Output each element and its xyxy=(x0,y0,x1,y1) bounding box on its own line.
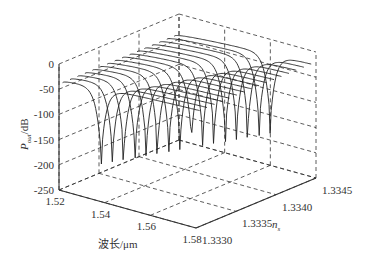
tick-labels: 0-50-100-150-200-2501.521.541.561.581.33… xyxy=(34,58,353,246)
svg-text:-200: -200 xyxy=(34,159,55,171)
series-curve xyxy=(122,57,259,132)
svg-text:1.56: 1.56 xyxy=(137,220,157,232)
svg-text:-100: -100 xyxy=(34,108,55,120)
svg-text:1.52: 1.52 xyxy=(45,195,64,207)
series-curve xyxy=(115,60,252,149)
svg-text:1.3330: 1.3330 xyxy=(202,234,233,246)
data-curves xyxy=(63,36,312,165)
svg-text:0: 0 xyxy=(49,58,55,70)
series-curve xyxy=(174,36,311,134)
x-axis-label: 波长/μm xyxy=(98,238,138,250)
svg-text:1.58: 1.58 xyxy=(182,233,202,245)
z-axis-label: Pout/dB xyxy=(18,118,33,151)
svg-text:-50: -50 xyxy=(39,83,54,95)
svg-text:1.3335: 1.3335 xyxy=(242,217,273,229)
series-curve xyxy=(130,54,267,146)
svg-text:1.54: 1.54 xyxy=(91,208,111,220)
svg-text:-150: -150 xyxy=(34,134,55,146)
chart-3d: 0-50-100-150-200-2501.521.541.561.581.33… xyxy=(0,0,366,255)
y-axis-label: ns xyxy=(272,218,281,233)
svg-text:1.3345: 1.3345 xyxy=(322,184,353,196)
svg-text:1.3340: 1.3340 xyxy=(282,201,313,213)
